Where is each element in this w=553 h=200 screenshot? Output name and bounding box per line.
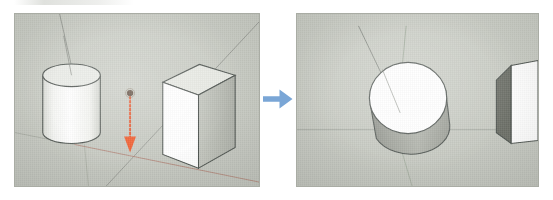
viewport-panel-before[interactable] <box>14 13 260 187</box>
inference-point-dot <box>127 90 133 96</box>
viewport-scene-after <box>297 14 538 186</box>
viewport-panel-after[interactable] <box>296 13 539 187</box>
object-cube-before[interactable] <box>163 64 235 168</box>
arrow-right-shape <box>263 90 293 109</box>
object-cylinder-after[interactable] <box>369 62 449 154</box>
viewport-scene-before <box>15 14 259 186</box>
cube-front-face <box>511 60 538 143</box>
scan-artifact <box>14 0 134 5</box>
arrow-right-icon <box>262 84 294 114</box>
cylinder-top-face <box>369 62 446 133</box>
figure-root <box>0 0 553 200</box>
cube-front-face <box>163 82 199 168</box>
